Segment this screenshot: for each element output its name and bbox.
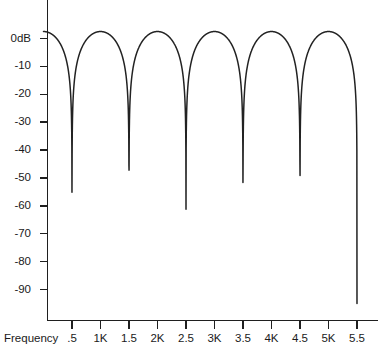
x-axis-tick-label: 2.5 — [178, 332, 194, 344]
x-axis-tick-label: 1.5 — [121, 332, 137, 344]
x-axis-ticks — [72, 321, 357, 329]
axis-frame — [48, 0, 379, 321]
x-axis-tick-labels: .51K1.52K2.53K3.54K4.55K5.5 — [67, 332, 365, 344]
y-axis-tick-label: -30 — [14, 115, 31, 127]
y-axis-tick-label: -90 — [14, 283, 31, 295]
frequency-response-chart: 0dB-10-20-30-40-50-60-70-80-90 .51K1.52K… — [0, 0, 384, 356]
y-axis-tick-label: -70 — [14, 227, 31, 239]
x-axis-tick-label: 5K — [321, 332, 335, 344]
x-axis-tick-label: 4K — [264, 332, 278, 344]
x-axis-tick-label: 5.5 — [349, 332, 365, 344]
x-axis-tick-label: 3K — [207, 332, 221, 344]
x-axis-tick-label: 4.5 — [292, 332, 308, 344]
y-axis-tick-label: -40 — [14, 143, 31, 155]
y-axis-ticks — [40, 39, 48, 290]
x-axis-tick-label: .5 — [67, 332, 77, 344]
x-axis-tick-label: 3.5 — [235, 332, 251, 344]
y-axis-tick-label: -80 — [14, 255, 31, 267]
x-axis-title: Frequency — [4, 332, 59, 344]
y-axis-tick-label: -20 — [14, 87, 31, 99]
y-axis-tick-label: -60 — [14, 199, 31, 211]
y-axis-tick-label: -10 — [14, 59, 31, 71]
x-axis-tick-label: 2K — [150, 332, 164, 344]
y-axis-tick-label: 0dB — [11, 32, 32, 44]
x-axis-tick-label: 1K — [93, 332, 107, 344]
response-curve — [44, 32, 358, 304]
y-axis-tick-label: -50 — [14, 171, 31, 183]
chart-svg: 0dB-10-20-30-40-50-60-70-80-90 .51K1.52K… — [0, 0, 384, 356]
y-axis-tick-labels: 0dB-10-20-30-40-50-60-70-80-90 — [11, 32, 32, 295]
